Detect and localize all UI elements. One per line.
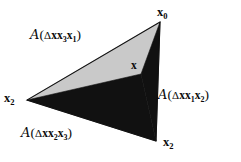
interior-point-label-x: x xyxy=(131,60,137,72)
vertex-label-x0: x0 xyxy=(157,6,168,19)
area1-term1-sub: 3 xyxy=(63,35,67,44)
area-label-x2x3: A(Δxx2x3) xyxy=(21,126,72,140)
vertex-label-x2-bottom: x2 xyxy=(163,136,174,149)
paren-close-2: ) xyxy=(204,87,209,102)
area1-term2-sub: 1 xyxy=(72,35,76,44)
area2-term2-sub: 2 xyxy=(200,95,204,104)
interior-point-base: x xyxy=(131,59,137,71)
area3-term1-base: x xyxy=(48,127,54,139)
script-a-icon-2: A xyxy=(158,87,168,102)
vertex-x2-bottom-subscript: 2 xyxy=(169,141,173,151)
area2-term1-sub: 1 xyxy=(191,95,195,104)
vertex-x0-subscript: 0 xyxy=(163,11,167,21)
geometric-figure: x0 x2 x2 x A(Δxx3x1) A(Δxx1x2) A(Δxx2x3) xyxy=(0,0,241,162)
vertex-x2-left-subscript: 2 xyxy=(10,97,14,107)
script-a-icon-3: A xyxy=(21,125,31,140)
script-a-icon: A xyxy=(30,27,40,42)
paren-close-1: ) xyxy=(76,27,81,42)
area-label-x1x2: A(Δxx1x2) xyxy=(158,88,209,102)
paren-close-3: ) xyxy=(67,125,72,140)
vertex-label-x2-left: x2 xyxy=(4,92,15,105)
area3-term1-sub: 2 xyxy=(54,133,58,142)
area1-term1-base: x xyxy=(57,29,63,41)
area-label-x3x1: A(Δxx3x1) xyxy=(30,28,81,42)
area3-term2-sub: 3 xyxy=(63,133,67,142)
area2-term1-base: x xyxy=(185,89,191,101)
